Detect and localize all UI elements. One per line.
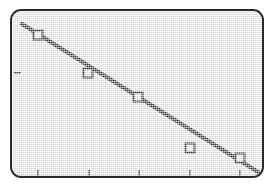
data-point-marker bbox=[186, 144, 195, 153]
data-point-marker bbox=[236, 154, 245, 163]
data-point-marker bbox=[34, 31, 43, 40]
calculator-screen-bezel bbox=[10, 9, 264, 178]
scatter-plot-regression bbox=[12, 11, 262, 176]
data-point-marker bbox=[84, 69, 93, 78]
x-axis-ticks bbox=[38, 170, 240, 176]
data-point-marker bbox=[134, 93, 143, 102]
calculator-screenshot bbox=[0, 0, 273, 187]
